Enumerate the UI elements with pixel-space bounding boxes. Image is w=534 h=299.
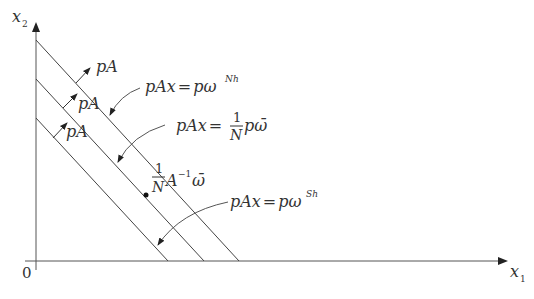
normal-label-northern: pA bbox=[96, 57, 118, 76]
budget-line-diagram: x 2 x 1 0 pA pA pA pAx=pω Nh pAx= 1 N pω… bbox=[0, 0, 534, 299]
svg-text:−1: −1 bbox=[178, 169, 191, 179]
equation-northern: pAx=pω Nh bbox=[145, 74, 239, 96]
budget-line-southern bbox=[36, 118, 168, 261]
svg-text:ω̄: ω̄ bbox=[192, 171, 205, 190]
svg-text:1: 1 bbox=[233, 110, 241, 125]
normal-arrow-southern-icon bbox=[53, 123, 67, 138]
leader-northern bbox=[110, 88, 140, 115]
y-axis-arrow-icon bbox=[32, 22, 40, 32]
equation-average: pAx= 1 N pω̄ bbox=[176, 110, 267, 143]
svg-text:pAx=: pAx= bbox=[176, 116, 222, 135]
origin-label: 0 bbox=[22, 264, 32, 282]
equation-southern: pAx=pω Sh bbox=[230, 189, 318, 211]
endowment-point bbox=[144, 193, 149, 198]
svg-text:A: A bbox=[164, 171, 178, 190]
normal-arrow-average-icon bbox=[63, 94, 77, 108]
leader-southern bbox=[158, 202, 228, 245]
y-axis-label: x bbox=[12, 7, 21, 26]
svg-text:N: N bbox=[229, 127, 243, 143]
y-axis-subscript: 2 bbox=[22, 19, 28, 29]
point-label: 1 N A −1 ω̄ bbox=[151, 161, 205, 195]
svg-text:Nh: Nh bbox=[224, 74, 239, 84]
svg-text:pAx=pω: pAx=pω bbox=[230, 192, 302, 211]
svg-text:1: 1 bbox=[155, 161, 163, 176]
normal-arrow-northern-icon bbox=[76, 68, 90, 83]
x-axis-label: x bbox=[510, 262, 519, 281]
leader-average bbox=[118, 125, 165, 162]
normal-label-southern: pA bbox=[66, 122, 88, 141]
x-axis-subscript: 1 bbox=[520, 274, 526, 284]
svg-text:pAx=pω: pAx=pω bbox=[145, 77, 217, 96]
svg-text:pω̄: pω̄ bbox=[244, 116, 267, 135]
svg-text:N: N bbox=[151, 179, 165, 195]
normal-label-average: pA bbox=[78, 94, 100, 113]
x-axis-arrow-icon bbox=[498, 257, 508, 265]
svg-text:Sh: Sh bbox=[306, 189, 318, 199]
